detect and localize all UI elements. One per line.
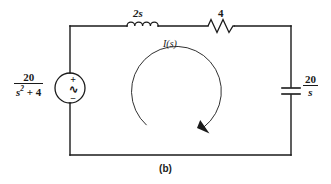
figure-caption: (b)	[0, 164, 331, 174]
source-fraction: 20 s2 + 4	[14, 72, 43, 98]
capacitor-denominator: s	[303, 85, 318, 98]
source-label: 20 s2 + 4	[14, 72, 43, 98]
loop-arrow-head	[197, 120, 210, 134]
loop-current-label: I(s)	[163, 39, 177, 49]
resistor-symbol	[208, 20, 235, 33]
source-denominator: s2 + 4	[14, 83, 43, 98]
capacitor-label: 20 s	[303, 74, 318, 98]
source-denominator-exponent: 2	[20, 84, 24, 93]
circuit-diagram	[0, 0, 331, 184]
resistor-label: 4	[218, 8, 224, 19]
source-numerator: 20	[14, 72, 43, 83]
loop-arrow-arc	[131, 46, 221, 127]
capacitor-numerator: 20	[303, 74, 318, 85]
source-minus-sign: −	[66, 93, 80, 104]
loop-current-paren-close: )	[174, 38, 177, 49]
inductor-label: 2s	[133, 8, 143, 19]
source-denominator-rest: + 4	[27, 86, 42, 98]
capacitor-fraction: 20 s	[303, 74, 318, 98]
inductor-symbol	[127, 22, 158, 26]
